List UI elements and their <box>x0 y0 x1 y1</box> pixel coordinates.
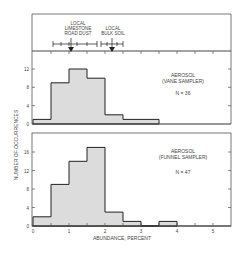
funnel-histogram-bars <box>33 147 177 226</box>
svg-text:12: 12 <box>24 169 30 174</box>
svg-text:5: 5 <box>212 229 215 234</box>
svg-text:0: 0 <box>32 229 35 234</box>
bulk-soil-range-bar <box>101 38 123 48</box>
x-axis-label: ABUNDANCE, PERCENT <box>93 235 151 241</box>
funnel-histogram-panel: 04 81216 012 345 AEROSOL (FUNNEL SAMPLER… <box>24 133 231 234</box>
svg-text:4: 4 <box>176 229 179 234</box>
svg-text:12: 12 <box>24 67 30 72</box>
svg-text:1: 1 <box>68 229 71 234</box>
ref2-label: BULK SOIL <box>101 31 125 36</box>
svg-text:3: 3 <box>140 229 143 234</box>
vane-histogram-panel: 04 812 AEROSOL (VANE SAMPLER) N = 36 <box>24 51 231 127</box>
svg-text:2: 2 <box>104 229 107 234</box>
svg-text:0: 0 <box>26 224 29 229</box>
y-axis-label: NUMBER OF OCCURRENCES <box>13 109 19 180</box>
svg-text:0: 0 <box>26 122 29 127</box>
vane-histogram-bars <box>33 69 159 124</box>
svg-text:8: 8 <box>26 85 29 90</box>
limestone-range-bar <box>53 38 97 48</box>
svg-text:8: 8 <box>26 187 29 192</box>
figure: LOCAL LIMESTONE ROAD DUST LOCAL BULK SOI… <box>0 0 243 253</box>
svg-text:4: 4 <box>26 104 29 109</box>
vane-subtitle: (VANE SAMPLER) <box>162 78 204 84</box>
svg-text:16: 16 <box>24 150 30 155</box>
funnel-subtitle: (FUNNEL SAMPLER) <box>159 154 208 160</box>
reference-panel: LOCAL LIMESTONE ROAD DUST LOCAL BULK SOI… <box>32 14 231 54</box>
funnel-n-label: N = 47 <box>176 169 191 175</box>
svg-text:4: 4 <box>26 206 29 211</box>
vane-n-label: N = 36 <box>176 90 191 96</box>
ref1-label: ROAD DUST <box>64 31 91 36</box>
